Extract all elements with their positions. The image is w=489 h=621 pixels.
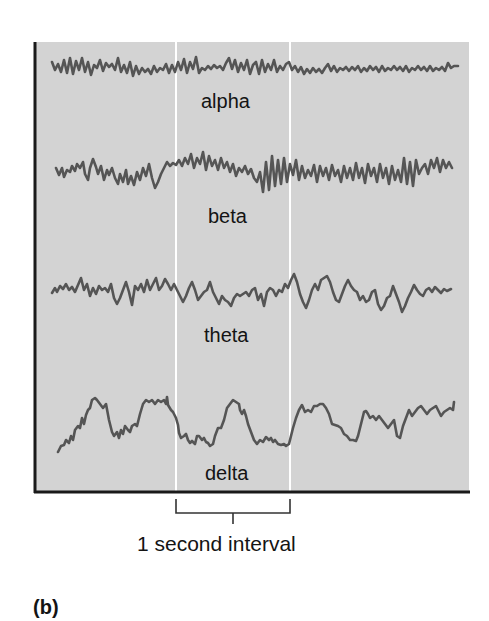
interval-bracket [176,499,290,524]
interval-caption: 1 second interval [137,533,296,554]
delta-label: delta [205,463,248,483]
alpha-label: alpha [201,91,250,111]
panel-letter: (b) [33,597,59,617]
theta-label: theta [204,325,248,345]
beta-label: beta [208,206,247,226]
